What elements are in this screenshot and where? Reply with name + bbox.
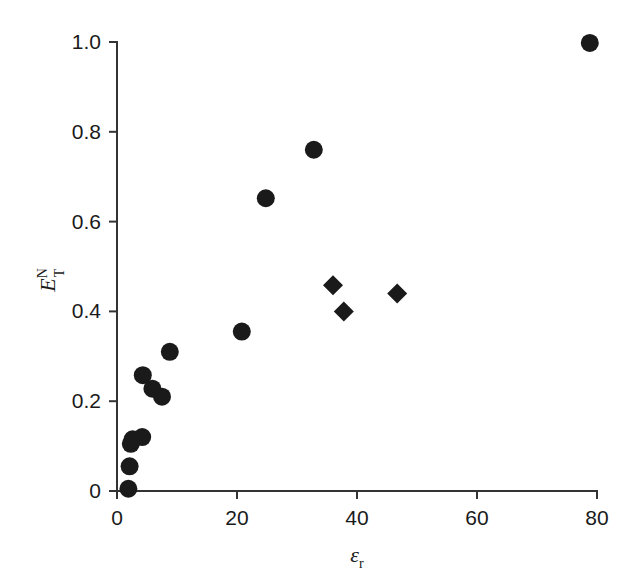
data-point-circle xyxy=(305,141,323,159)
plot-canvas: 00.20.40.60.81.0 020406080 ENT εr xyxy=(0,0,641,581)
data-point-circle xyxy=(121,457,139,475)
data-point-circle xyxy=(233,323,251,341)
axes-group xyxy=(117,42,597,491)
x-axis-title-group: εr xyxy=(350,542,364,571)
y-axis-title-group: ENT xyxy=(35,268,67,293)
data-point-circle xyxy=(133,428,151,446)
data-point-diamond xyxy=(334,301,354,321)
y-axis-tick-marks xyxy=(109,42,117,491)
y-tick-label: 0.6 xyxy=(72,210,101,233)
x-tick-label: 20 xyxy=(225,506,248,529)
data-point-circle xyxy=(581,34,599,52)
data-point-diamond xyxy=(387,283,407,303)
y-axis-title-subscript: T xyxy=(52,268,67,277)
y-axis-title: ENT xyxy=(35,268,67,293)
y-axis-title-superscript: N xyxy=(35,268,50,278)
y-axis-tick-labels: 00.20.40.60.81.0 xyxy=(72,30,102,502)
x-tick-label: 60 xyxy=(465,506,488,529)
y-axis-title-base: E xyxy=(35,278,60,293)
data-point-circle xyxy=(119,480,137,498)
x-tick-label: 40 xyxy=(345,506,368,529)
x-axis-tick-labels: 020406080 xyxy=(111,506,609,529)
data-point-circle xyxy=(257,189,275,207)
scatter-plot-figure: 00.20.40.60.81.0 020406080 ENT εr xyxy=(0,0,641,581)
data-series-circles xyxy=(119,34,598,498)
y-tick-label: 0.8 xyxy=(72,120,101,143)
x-tick-label: 0 xyxy=(111,506,123,529)
x-axis-tick-marks xyxy=(117,491,597,499)
y-tick-label: 0 xyxy=(89,479,101,502)
x-axis-title-base: ε xyxy=(350,542,359,567)
x-tick-label: 80 xyxy=(585,506,608,529)
y-tick-label: 1.0 xyxy=(72,30,101,53)
x-axis-title: εr xyxy=(350,542,364,571)
y-tick-label: 0.2 xyxy=(72,389,101,412)
y-tick-label: 0.4 xyxy=(72,299,102,322)
data-point-diamond xyxy=(323,275,343,295)
data-point-circle xyxy=(161,343,179,361)
x-axis-title-subscript: r xyxy=(359,556,364,571)
data-point-circle xyxy=(153,388,171,406)
data-series-diamonds xyxy=(323,275,407,321)
